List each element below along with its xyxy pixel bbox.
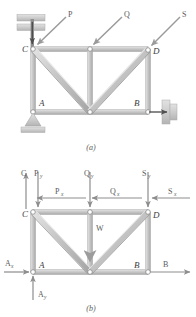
- force-label-ay: A y: [38, 290, 47, 300]
- force-label-qy: Q y: [84, 169, 94, 179]
- panel-a: C D A B P Q S (a): [17, 10, 186, 152]
- force-label-ay-sub: y: [43, 294, 47, 300]
- label-node-d-a: D: [152, 46, 160, 56]
- force-label-px-sub: x: [60, 191, 64, 197]
- force-label-sy-base: S: [142, 169, 146, 178]
- label-load-p: P: [68, 10, 73, 19]
- force-label-qx: Q x: [110, 187, 120, 197]
- support-roller-b: [149, 100, 177, 124]
- truss-figure: C D A B P Q S (a): [0, 0, 196, 317]
- force-label-w-base: W: [96, 224, 104, 233]
- support-pin-a: [21, 113, 45, 133]
- force-label-py-sub: y: [39, 173, 43, 179]
- force-label-sy-sub: y: [147, 173, 151, 179]
- force-label-ax-sub: x: [10, 263, 14, 269]
- caption-a: (a): [86, 143, 96, 152]
- force-label-py-base: P: [34, 169, 39, 178]
- force-label-c-base: C: [21, 169, 26, 178]
- truss-members-a: [30, 46, 150, 114]
- label-node-c-b: C: [22, 209, 29, 219]
- force-label-qx-sub: x: [116, 191, 120, 197]
- force-label-ax: A x: [5, 259, 14, 269]
- force-label-sx-base: S: [168, 187, 172, 196]
- force-label-sx: S x: [168, 187, 177, 197]
- force-label-b-base: B: [163, 260, 168, 269]
- label-node-d-b: D: [152, 210, 160, 220]
- force-label-px: P x: [55, 187, 64, 197]
- load-arrows-a: [38, 17, 181, 46]
- force-label-px-base: P: [55, 187, 60, 196]
- figure-container: C D A B P Q S (a): [0, 0, 196, 317]
- force-label-qx-base: Q: [110, 187, 116, 196]
- force-label-qy-base: Q: [84, 169, 90, 178]
- force-label-c: C: [21, 169, 26, 178]
- label-load-s: S: [182, 10, 186, 19]
- force-label-qy-sub: y: [90, 173, 94, 179]
- force-label-sx-sub: x: [173, 191, 177, 197]
- force-label-sy: S y: [142, 169, 151, 179]
- force-label-w: W: [96, 224, 104, 233]
- panel-b: C D A B C P y P x Q y Q x: [4, 169, 190, 313]
- label-node-c-a: C: [22, 44, 29, 54]
- label-node-a-b: A: [38, 260, 45, 270]
- label-node-a-a: A: [38, 98, 45, 108]
- label-load-q: Q: [124, 10, 130, 19]
- force-label-b: B: [163, 260, 168, 269]
- label-node-b-a: B: [134, 98, 140, 108]
- caption-b: (b): [86, 304, 96, 313]
- label-node-b-b: B: [134, 260, 140, 270]
